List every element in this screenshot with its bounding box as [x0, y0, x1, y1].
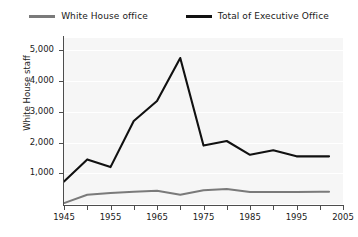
y-axis-tick-label: 1,000 — [14, 167, 54, 177]
plot-area — [64, 38, 343, 204]
x-axis-tick-label: 2005 — [326, 212, 358, 222]
x-axis-tick-label: 1985 — [233, 212, 267, 222]
legend-swatch-total-executive-office — [186, 15, 212, 18]
x-axis-tick — [157, 206, 158, 210]
y-axis-tick-label: 2,000 — [14, 137, 54, 147]
x-axis-tick — [250, 206, 251, 210]
x-axis-tick — [64, 206, 65, 210]
y-axis-tick — [59, 112, 63, 113]
x-axis-tick — [297, 206, 298, 210]
y-axis-tick-label: 5,000 — [14, 44, 54, 54]
x-axis-tick — [111, 206, 112, 210]
legend-label-total-executive-office: Total of Executive Office — [218, 11, 329, 21]
x-axis-tick — [134, 206, 135, 210]
y-axis-tick-label: 4,000 — [14, 75, 54, 85]
x-axis-tick-label: 1965 — [140, 212, 174, 222]
x-axis-tick-label: 1945 — [47, 212, 81, 222]
y-axis-tick — [59, 173, 63, 174]
y-axis-tick-label: 3,000 — [14, 106, 54, 116]
x-axis-tick — [180, 206, 181, 210]
series-line-white-house-office — [64, 189, 329, 203]
x-axis-tick-label: 1995 — [280, 212, 314, 222]
x-axis-tick — [87, 206, 88, 210]
x-axis-tick — [227, 206, 228, 210]
series-lines — [64, 38, 343, 204]
legend-label-white-house-office: White House office — [61, 11, 148, 21]
y-axis-tick — [59, 143, 63, 144]
x-axis-tick-label: 1955 — [94, 212, 128, 222]
y-axis-line — [63, 36, 64, 206]
x-axis-tick — [343, 206, 344, 210]
x-axis-tick — [320, 206, 321, 210]
legend-entry-total-executive-office: Total of Executive Office — [186, 11, 329, 21]
chart-legend: White House office Total of Executive Of… — [0, 7, 358, 25]
x-axis-tick — [273, 206, 274, 210]
y-axis-tick — [59, 50, 63, 51]
chart-container: White House office Total of Executive Of… — [0, 0, 358, 237]
y-axis-title: White House staff — [22, 38, 32, 148]
y-axis-tick — [59, 81, 63, 82]
legend-swatch-white-house-office — [29, 15, 55, 18]
legend-entry-white-house-office: White House office — [29, 11, 148, 21]
series-line-total-of-executive-office — [64, 58, 329, 182]
x-axis-tick — [204, 206, 205, 210]
x-axis-tick-label: 1975 — [187, 212, 221, 222]
